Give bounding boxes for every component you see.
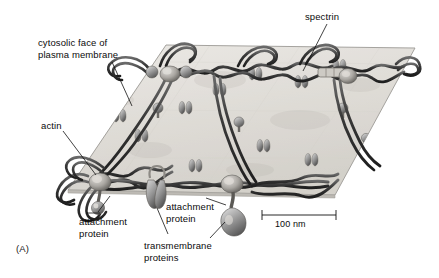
- label-actin: actin: [41, 120, 62, 132]
- label-attachment-protein-right: attachment protein: [166, 201, 214, 224]
- label-spectrin: spectrin: [305, 11, 339, 23]
- leader-actin: [63, 131, 96, 175]
- leader-attachment-right: [210, 222, 225, 238]
- panel-label: (A): [16, 243, 29, 255]
- scale-bar-label: 100 nm: [275, 219, 306, 231]
- figure-panel: cytosolic face of plasma membrane spectr…: [0, 0, 439, 278]
- label-cytosolic-face: cytosolic face of plasma membrane: [38, 37, 118, 60]
- leader-cytosolic-face: [112, 62, 132, 106]
- label-transmembrane-proteins: transmembrane proteins: [144, 240, 212, 263]
- actin-junction-left: [89, 173, 111, 191]
- junction-complex-lower-center: [221, 175, 246, 236]
- label-attachment-protein-left: attachment protein: [79, 216, 127, 239]
